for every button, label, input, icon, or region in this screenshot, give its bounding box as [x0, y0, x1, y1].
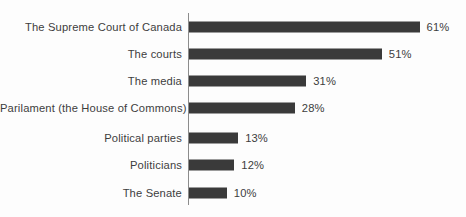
bar-segment — [189, 159, 234, 170]
bar-row: Political parties 13% — [0, 124, 466, 151]
value-label: 61% — [427, 21, 450, 33]
bar-segment — [189, 132, 238, 143]
value-label: 13% — [245, 132, 268, 144]
category-label: Political parties — [0, 132, 182, 144]
value-label: 51% — [389, 48, 412, 60]
bar-segment — [189, 75, 306, 86]
bar-row: The courts 51% — [0, 40, 466, 67]
bar-chart: The Supreme Court of Canada 61% The cour… — [0, 0, 466, 217]
category-label: The media — [0, 75, 182, 87]
bar-row: The media 31% — [0, 67, 466, 94]
value-label: 31% — [313, 75, 336, 87]
value-label: 28% — [302, 102, 325, 114]
value-label: 12% — [241, 159, 264, 171]
bar-row: The Senate 10% — [0, 179, 466, 206]
bar-segment — [189, 187, 227, 198]
category-label: The Senate — [0, 187, 182, 199]
category-label: The Supreme Court of Canada — [0, 21, 182, 33]
bar-segment — [189, 48, 382, 59]
value-label: 10% — [234, 187, 257, 199]
bar-segment — [189, 102, 295, 113]
bar-segment — [189, 21, 420, 32]
category-label: The courts — [0, 48, 182, 60]
bar-row: Parilament (the House of Commons) 28% — [0, 94, 466, 121]
bar-row: The Supreme Court of Canada 61% — [0, 13, 466, 40]
bar-row: Politicians 12% — [0, 151, 466, 178]
category-label: Parilament (the House of Commons) — [0, 102, 182, 114]
category-label: Politicians — [0, 159, 182, 171]
